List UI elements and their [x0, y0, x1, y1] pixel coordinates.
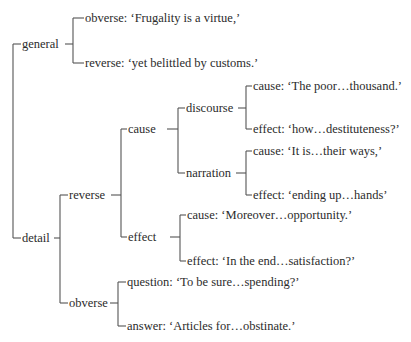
node-effect-effect: effect: ‘In the end…satisfaction?’ [186, 254, 356, 268]
node-discourse-cause: cause: ‘The poor…thousand.’ [252, 79, 403, 93]
node-detail-obverse: obverse [68, 296, 109, 310]
node-narration: narration [185, 166, 232, 180]
node-narration-effect: effect: ‘ending up…hands’ [252, 188, 388, 202]
node-discourse: discourse [185, 101, 234, 115]
node-general: general [21, 37, 60, 51]
node-detail: detail [21, 231, 51, 245]
node-general-obverse: obverse: ‘Frugality is a virtue,’ [84, 11, 241, 25]
node-obverse-answer: answer: ‘Articles for…obstinate.’ [126, 319, 296, 333]
node-narration-cause: cause: ‘It is…their ways,’ [252, 144, 383, 158]
node-reverse-cause: cause [127, 122, 157, 136]
node-discourse-effect: effect: ‘how…destituteness?’ [252, 122, 401, 136]
node-obverse-question: question: ‘To be sure…spending?’ [126, 275, 300, 289]
node-detail-reverse: reverse [68, 188, 106, 202]
node-effect-cause: cause: ‘Moreover…opportunity.’ [186, 208, 353, 222]
node-general-reverse: reverse: ‘yet belittled by customs.’ [84, 56, 259, 70]
node-reverse-effect: effect [127, 230, 157, 244]
